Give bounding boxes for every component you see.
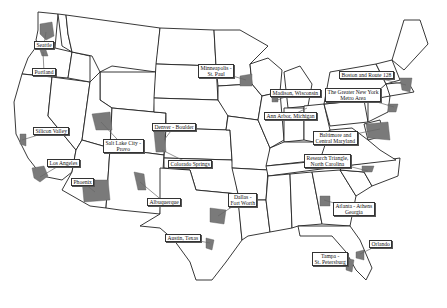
region-label-albuquerque: Albuquerque [147, 198, 181, 206]
region-label-portland: Portland [32, 68, 56, 76]
region-label-dallas-fort-worth: Dallas - Fort Worth [228, 193, 257, 207]
region-label-austin: Austin, Texas [165, 234, 201, 242]
region-label-madison: Madison, Wisconsin [270, 89, 321, 97]
region-label-orlando: Orlando [369, 240, 392, 248]
region-label-salt-lake-city: Salt Lake City - Provo [103, 139, 144, 153]
region-label-tampa: Tampa - St. Petersburg [312, 252, 348, 266]
region-label-boston: Boston and Route 128 [339, 71, 394, 79]
region-label-new-york: The Greater New York Metro Area [325, 88, 381, 102]
region-label-baltimore: Baltimore and Central Maryland [313, 131, 358, 145]
region-label-atlanta: Atlanta - Athens Georgia [333, 202, 375, 216]
map-canvas [0, 0, 447, 308]
region-label-denver-boulder: Denver - Boulder [152, 123, 196, 131]
region-label-colorado-springs: Colorado Springs [168, 160, 212, 168]
region-label-silicon-valley: Silicon Valley [33, 127, 69, 135]
region-label-ann-arbor: Ann Arbor, Michigan [264, 112, 317, 120]
region-label-minneapolis: Minneapolis - St. Paul [198, 64, 234, 78]
region-label-research-triangle: Research Triangle, North Carolina [304, 154, 351, 168]
region-label-phoenix: Phoenix [71, 178, 94, 186]
region-label-seattle: Seattle [34, 41, 54, 49]
state-outlines [14, 12, 428, 280]
us-map: SeattlePortlandSilicon ValleyLos Angeles… [0, 0, 447, 308]
region-label-los-angeles: Los Angeles [47, 159, 80, 167]
